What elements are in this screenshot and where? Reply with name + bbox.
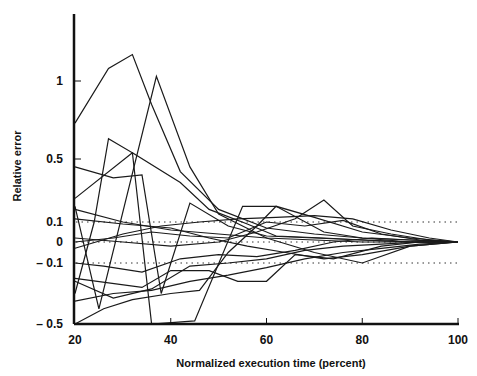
series-line-s11 — [75, 242, 458, 301]
series-line-s2 — [75, 76, 458, 308]
y-tick-label: 0.5 — [46, 152, 63, 166]
series-lines — [75, 55, 458, 325]
y-tick-label: – 0.5 — [36, 317, 63, 331]
series-line-s1 — [75, 55, 458, 243]
line-chart: 20406080100 – 0.5– 0.100.10.51 Normalize… — [0, 0, 477, 376]
x-tick-label: 40 — [164, 333, 178, 347]
x-tick-label: 100 — [448, 333, 468, 347]
x-tick-label: 60 — [260, 333, 274, 347]
x-ticks: 20406080100 — [68, 318, 468, 347]
series-line-s6 — [75, 219, 458, 259]
x-tick-label: 20 — [68, 333, 82, 347]
y-tick-label: 0 — [56, 235, 63, 249]
y-tick-label: – 0.1 — [36, 256, 63, 270]
y-tick-label: 0.1 — [46, 215, 63, 229]
series-line-s3 — [75, 167, 458, 294]
y-tick-label: 1 — [56, 74, 63, 88]
x-tick-label: 80 — [356, 333, 370, 347]
x-axis-title: Normalized execution time (percent) — [176, 357, 366, 369]
y-axis-title: Relative error — [11, 130, 23, 202]
